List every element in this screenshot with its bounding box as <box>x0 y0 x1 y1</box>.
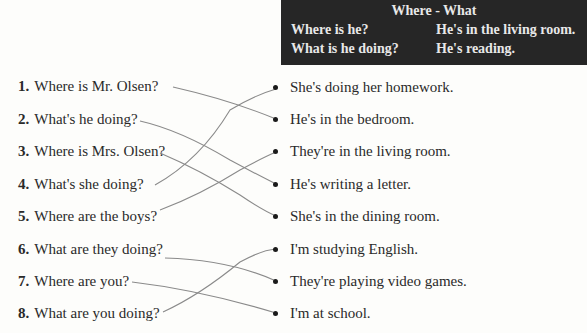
question-item: 3.Where is Mrs. Olsen? <box>18 143 165 160</box>
question-number: 8. <box>18 305 29 321</box>
question-item: 1.Where is Mr. Olsen? <box>18 78 158 95</box>
bullet-dot-icon <box>273 247 278 252</box>
example-box: Where - What Where is he? He's in the li… <box>281 0 587 65</box>
example-question: What is he doing? <box>291 41 399 57</box>
question-number: 3. <box>18 143 29 159</box>
answer-item: He's in the bedroom. <box>273 111 414 128</box>
match-line <box>173 87 276 119</box>
answer-text: I'm at school. <box>290 305 371 321</box>
question-text: What's he doing? <box>34 111 138 127</box>
question-text: Where are the boys? <box>34 208 157 224</box>
match-line <box>160 153 276 216</box>
match-line <box>155 89 276 185</box>
question-text: What are you doing? <box>34 305 159 321</box>
bullet-dot-icon <box>273 311 278 316</box>
bullet-dot-icon <box>273 85 278 90</box>
bullet-dot-icon <box>273 117 278 122</box>
answer-text: He's in the bedroom. <box>290 111 414 127</box>
question-text: What are they doing? <box>34 241 163 257</box>
answer-text: He's writing a letter. <box>290 176 411 192</box>
example-title: Where - What <box>281 3 587 19</box>
question-text: Where are you? <box>34 273 129 289</box>
bullet-dot-icon <box>273 182 278 187</box>
question-item: 6.What are they doing? <box>18 241 163 258</box>
answer-item: They're playing video games. <box>273 273 467 290</box>
bullet-dot-icon <box>273 279 278 284</box>
answer-item: I'm at school. <box>273 305 371 322</box>
question-number: 1. <box>18 78 29 94</box>
question-item: 7.Where are you? <box>18 273 129 290</box>
answer-text: They're in the living room. <box>290 143 451 159</box>
answer-text: She's in the dining room. <box>290 208 440 224</box>
answer-item: He's writing a letter. <box>273 176 411 193</box>
answer-item: She's in the dining room. <box>273 208 440 225</box>
question-item: 4.What's she doing? <box>18 176 144 193</box>
answer-item: She's doing her homework. <box>273 79 454 96</box>
answer-item: I'm studying English. <box>273 241 418 258</box>
example-answer: He's reading. <box>436 41 515 57</box>
question-item: 5.Where are the boys? <box>18 208 157 225</box>
answer-text: She's doing her homework. <box>290 79 454 95</box>
question-number: 2. <box>18 111 29 127</box>
answer-item: They're in the living room. <box>273 143 451 160</box>
question-number: 7. <box>18 273 29 289</box>
question-text: Where is Mrs. Olsen? <box>34 143 165 159</box>
question-number: 4. <box>18 176 29 192</box>
question-number: 5. <box>18 208 29 224</box>
example-question: Where is he? <box>291 22 369 38</box>
question-text: Where is Mr. Olsen? <box>34 78 158 94</box>
bullet-dot-icon <box>273 214 278 219</box>
match-line <box>165 258 276 281</box>
match-line <box>163 249 276 312</box>
question-item: 2.What's he doing? <box>18 111 138 128</box>
match-line <box>160 152 276 210</box>
question-item: 8.What are you doing? <box>18 305 160 322</box>
bullet-dot-icon <box>273 149 278 154</box>
example-answer: He's in the living room. <box>436 22 575 38</box>
question-number: 6. <box>18 241 29 257</box>
answer-text: I'm studying English. <box>290 241 418 257</box>
answer-text: They're playing video games. <box>290 273 467 289</box>
question-text: What's she doing? <box>34 176 143 192</box>
